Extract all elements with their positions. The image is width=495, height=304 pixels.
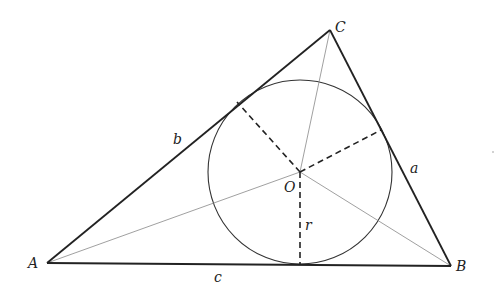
- side-label-b: b: [173, 131, 182, 147]
- diagram-canvas: A B C O r a b c: [0, 0, 495, 304]
- radius-to-a: [300, 130, 381, 172]
- inradius-label: r: [305, 217, 313, 233]
- stray-dot: [492, 151, 494, 153]
- side-a: [330, 30, 451, 266]
- bisector-B: [300, 172, 451, 266]
- side-b: [47, 30, 330, 263]
- side-label-a: a: [410, 160, 418, 176]
- radius-to-b: [237, 102, 300, 172]
- vertex-label-B: B: [455, 258, 466, 274]
- incircle-diagram: A B C O r a b c: [0, 0, 495, 304]
- vertex-label-C: C: [335, 19, 346, 35]
- side-label-c: c: [214, 269, 222, 285]
- bisector-A: [47, 172, 300, 263]
- incenter-label: O: [284, 179, 296, 195]
- vertex-label-A: A: [26, 255, 38, 271]
- side-c: [47, 263, 451, 266]
